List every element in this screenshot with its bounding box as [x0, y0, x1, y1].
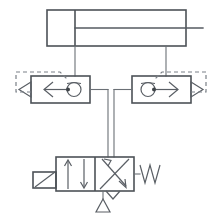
pneumatic-circuit-diagram [0, 0, 222, 217]
dcv-cross-arrow-b-shaft [102, 159, 126, 186]
spring-return-actuator [134, 165, 160, 183]
dcv-bottom-ports [96, 191, 120, 212]
right-valve-seat-top [141, 83, 155, 84]
left-valve-pilot-junction [66, 88, 70, 92]
dcv-cross-arrow-b-head [119, 179, 126, 188]
pilot-operated-check-valve-left[interactable] [16, 72, 108, 103]
left-valve-seat-top [67, 83, 81, 84]
dcv-position-crossed [100, 159, 129, 189]
pressure-supply-arrow [106, 191, 120, 199]
lever-actuator-diagonal [35, 172, 55, 187]
left-valve-outlet-arrowhead [19, 82, 31, 97]
spring-coils [140, 165, 160, 183]
exhaust-to-atmosphere-triangle [96, 199, 110, 212]
dcv-position-parallel [65, 159, 88, 189]
pilot-operated-check-valve-right[interactable] [114, 72, 206, 103]
double-acting-cylinder [47, 10, 203, 76]
directional-control-valve-4-2[interactable] [33, 157, 160, 212]
circuit-canvas [0, 0, 222, 217]
right-valve-outlet-arrowhead [191, 82, 203, 97]
dcv-connection-lines [108, 90, 114, 158]
right-valve-pilot-junction [152, 88, 156, 92]
manual-lever-actuator[interactable] [33, 172, 56, 188]
